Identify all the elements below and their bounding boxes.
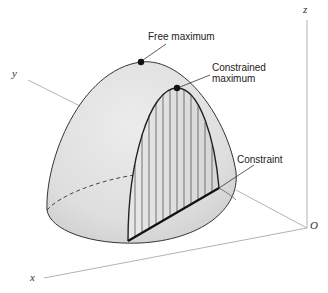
free-maximum-label: Free maximum	[148, 31, 215, 42]
free-maximum-point	[138, 59, 144, 65]
y-axis-label: y	[12, 67, 17, 79]
constrained-maximum-point	[174, 85, 180, 91]
x-axis-label: x	[30, 271, 35, 283]
constraint-label: Constraint	[237, 154, 283, 165]
origin-label: O	[310, 219, 318, 231]
y-axis-back	[236, 190, 307, 228]
constrained-maximum-label-line2: maximum	[212, 73, 255, 84]
diagram-canvas	[0, 0, 328, 293]
z-axis-label: z	[303, 3, 307, 15]
constrained-maximum-label-line1: Constrained	[212, 62, 266, 73]
free-maximum-leader	[143, 44, 166, 60]
y-axis-front	[28, 80, 80, 106]
